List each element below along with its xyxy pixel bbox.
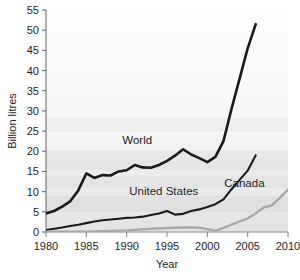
line-chart: 0510152025303540455055 19801985199019952… xyxy=(0,0,300,280)
x-axis-title: Year xyxy=(156,258,179,270)
y-tick-label: 30 xyxy=(27,105,39,117)
y-tick-label: 35 xyxy=(27,85,39,97)
y-tick-label: 15 xyxy=(27,165,39,177)
x-tick-label: 2000 xyxy=(195,240,219,252)
x-tick-label: 1985 xyxy=(74,240,98,252)
y-tick-label: 0 xyxy=(33,226,39,238)
x-tick-label: 2005 xyxy=(235,240,259,252)
series-label-canada: Canada xyxy=(224,177,265,189)
y-tick-label: 25 xyxy=(27,125,39,137)
y-tick-label: 45 xyxy=(27,44,39,56)
y-tick-label: 20 xyxy=(27,145,39,157)
chart-canvas: 0510152025303540455055 19801985199019952… xyxy=(0,0,300,280)
y-axis-title: Billion litres xyxy=(6,93,18,149)
y-tick-label: 50 xyxy=(27,24,39,36)
y-tick-label: 5 xyxy=(33,206,39,218)
y-tick-label: 10 xyxy=(27,186,39,198)
x-tick-label: 1995 xyxy=(155,240,179,252)
x-tick-label: 1990 xyxy=(114,240,138,252)
series-label-united-states: United States xyxy=(129,185,198,197)
series-label-world: World xyxy=(122,134,152,146)
x-tick-label: 2010 xyxy=(276,240,300,252)
x-tick-label: 1980 xyxy=(34,240,58,252)
y-tick-label: 40 xyxy=(27,65,39,77)
y-tick-label: 55 xyxy=(27,4,39,16)
